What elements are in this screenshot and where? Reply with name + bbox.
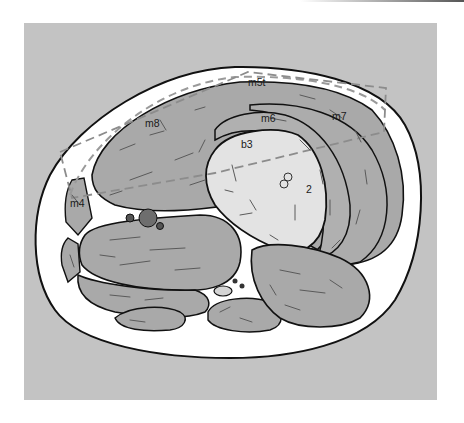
label-b3: b3 — [241, 138, 253, 150]
bone-mark-label: 2 — [306, 183, 312, 195]
vessel-small-right — [157, 223, 164, 230]
label-m4: m4 — [70, 197, 85, 209]
cross-section-diagram: 2 m5t m6 m7 m8 b3 m4 — [0, 0, 464, 423]
label-m5t: m5t — [248, 76, 266, 88]
label-m7: m7 — [332, 110, 347, 122]
label-m6: m6 — [261, 112, 276, 124]
label-m8: m8 — [145, 117, 160, 129]
vessel-lower-a — [233, 279, 238, 284]
nerve-bundle — [214, 286, 232, 296]
vessel-small-left — [126, 214, 134, 222]
vessel-large — [139, 209, 157, 227]
vessel-lower-b — [240, 284, 245, 289]
